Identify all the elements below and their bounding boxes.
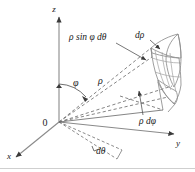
volume-rule-3 [170,53,176,92]
dtheta-wedge-upper [59,122,122,150]
leader-rho-sin-phi-dtheta [116,43,146,60]
figure-canvas: z y x 0 ρ sin φ dθ dρ ρ dφ dθ φ ρ [0,0,195,172]
ray-upper-near [59,57,152,122]
leader-line-top [116,43,146,60]
label-d-rho: dρ [135,30,145,40]
origin-label: 0 [43,117,48,128]
label-phi: φ [73,77,79,88]
axis-x [16,122,59,157]
volume-rule-2 [162,52,171,90]
axis-y-line [59,122,174,134]
label-rho: ρ [97,75,103,86]
axis-label-y: y [175,138,180,148]
phi-arc-head-top [56,84,62,88]
label-rho-d-phi: ρ dφ [138,116,156,126]
phi-arc-head-bottom [82,96,88,102]
volume-inner-edge [151,48,152,57]
volume-lower-outer-edge [168,104,175,112]
dtheta-wedge-cap [117,150,122,159]
label-d-theta: dθ [96,146,106,156]
axis-label-x: x [6,151,11,161]
label-rho-sin-phi-dtheta: ρ sin φ dθ [68,32,107,42]
spherical-coordinates-figure: z y x 0 ρ sin φ dθ dρ ρ dφ dθ φ ρ [0,0,195,172]
axis-x-line [16,122,59,157]
axis-y [59,122,174,134]
axis-label-z: z [51,4,56,14]
angle-phi-arc [56,84,88,102]
